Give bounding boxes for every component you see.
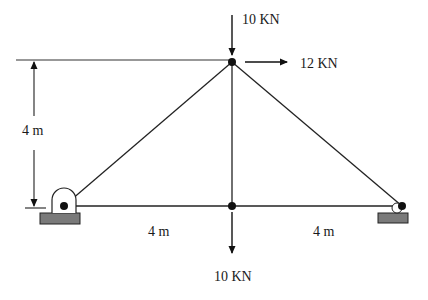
load-bottom-vertical: 10 KN xyxy=(214,212,252,284)
load-top-horizontal: 12 KN xyxy=(245,56,338,71)
height-dimension: 4 m xyxy=(16,60,232,208)
node-A xyxy=(60,202,68,210)
truss-diagram: 4 m 10 KN 12 KN 10 KN 4 m 4 m xyxy=(0,0,428,300)
member-AD xyxy=(64,62,232,206)
node-D xyxy=(228,58,236,66)
left-span-label: 4 m xyxy=(148,224,170,239)
load-top-vertical: 10 KN xyxy=(232,12,280,55)
load-bottom-vertical-label: 10 KN xyxy=(214,269,252,284)
node-C xyxy=(398,202,406,210)
right-span-label: 4 m xyxy=(313,224,335,239)
member-DC xyxy=(232,62,402,206)
roller-support-icon xyxy=(378,202,408,223)
height-label: 4 m xyxy=(22,123,44,138)
load-top-horizontal-label: 12 KN xyxy=(300,56,338,71)
truss-members xyxy=(64,62,402,206)
load-top-vertical-label: 10 KN xyxy=(242,12,280,27)
pin-support-icon xyxy=(40,188,80,224)
node-B xyxy=(228,202,236,210)
